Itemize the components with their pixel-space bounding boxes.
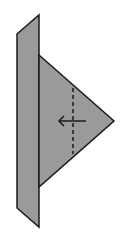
- vertical-strip: [17, 15, 39, 227]
- fold-diagram: [0, 0, 129, 241]
